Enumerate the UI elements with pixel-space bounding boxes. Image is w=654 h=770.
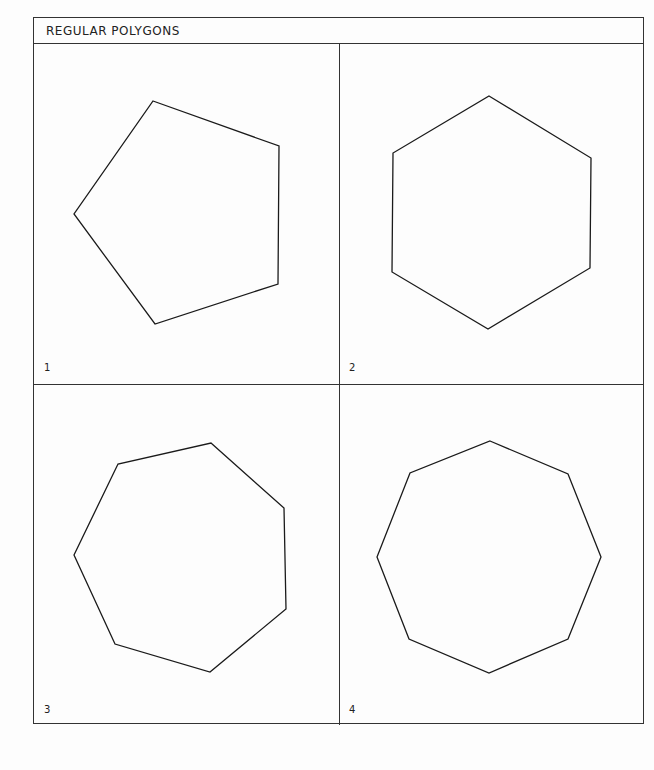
hexagon-shape: [392, 96, 591, 329]
heptagon-shape: [74, 443, 286, 672]
pentagon-shape: [74, 101, 279, 324]
polygons-canvas: [0, 0, 654, 770]
octagon-shape: [377, 441, 601, 673]
